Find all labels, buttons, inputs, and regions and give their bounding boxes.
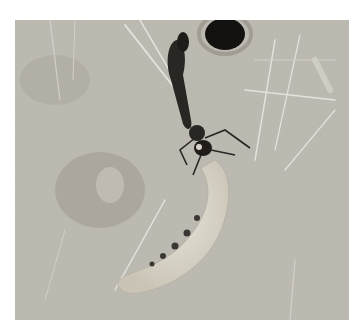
photo <box>15 20 349 320</box>
photo-scene <box>15 20 349 320</box>
